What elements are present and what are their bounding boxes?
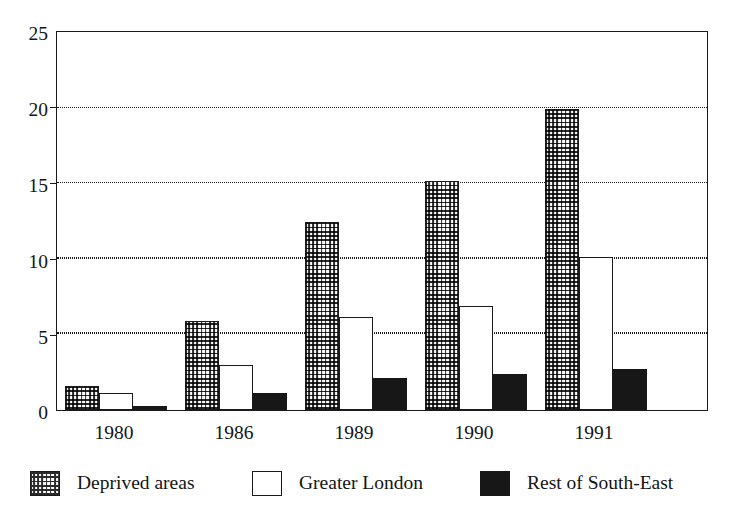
chart-figure: 25 20 15 10 5 0 1980 1986 1989 1990 1991… [0,0,732,526]
bar-1991-deprived [545,109,579,410]
x-tick-label-1991: 1991 [534,423,654,443]
y-tick-label-25: 25 [10,24,48,44]
plot-area [56,31,708,411]
bar-1991-london [579,257,613,410]
legend-item-rest-of-south-east: Rest of South-East [480,466,673,500]
legend-label-greater-london: Greater London [299,473,423,493]
black-swatch-icon [480,471,510,496]
y-tick-label-10: 10 [10,252,48,272]
bar-1986-london [219,365,253,410]
y-tick-label-20: 20 [10,100,48,120]
legend-label-rest-of-south-east: Rest of South-East [527,473,673,493]
bar-1986-deprived [185,321,219,410]
y-tick-label-0: 0 [10,403,48,423]
white-swatch-icon [252,471,282,496]
bar-1989-southeast [373,378,407,410]
bar-1991-southeast [613,369,647,410]
bar-1990-southeast [493,374,527,410]
bar-1986-southeast [253,393,287,410]
x-tick-label-1986: 1986 [174,423,294,443]
chart-legend: Deprived areas Greater London Rest of So… [0,466,732,510]
legend-item-greater-london: Greater London [252,466,423,500]
bar-group-1990 [425,32,526,410]
bar-group-1991 [545,32,646,410]
bar-1980-london [99,393,133,410]
x-tick-label-1980: 1980 [54,423,174,443]
bar-1990-london [459,306,493,410]
legend-label-deprived-areas: Deprived areas [77,473,194,493]
bar-group-1989 [305,32,406,410]
bar-1989-london [339,317,373,410]
bar-group-1986 [185,32,286,410]
dotted-pattern-swatch-icon [30,471,60,496]
bar-1980-deprived [65,386,99,410]
x-tick-label-1990: 1990 [414,423,534,443]
bar-1980-southeast [133,406,167,410]
x-tick-label-1989: 1989 [294,423,414,443]
legend-item-deprived-areas: Deprived areas [30,466,194,500]
bar-1989-deprived [305,222,339,410]
bar-1990-deprived [425,181,459,410]
bar-group-1980 [65,32,166,410]
y-tick-label-15: 15 [10,176,48,196]
y-tick-label-5: 5 [10,328,48,348]
